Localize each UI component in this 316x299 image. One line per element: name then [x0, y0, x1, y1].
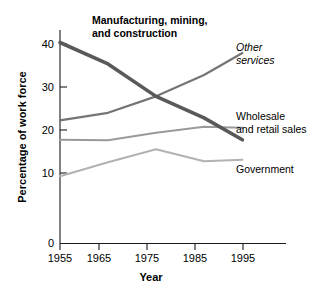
label-wholesale-line2: and retail sales	[236, 123, 307, 135]
x-tick-label-1975: 1975	[135, 252, 159, 264]
y-tick-label-30: 30	[42, 81, 54, 93]
label-manufacturing-line1: Manufacturing, mining,	[92, 14, 208, 26]
label-other-services-line2: services	[236, 54, 275, 66]
y-tick-label-20: 20	[42, 124, 54, 136]
label-wholesale-line1: Wholesale	[236, 110, 285, 122]
y-axis-title: Percentage of work force	[16, 71, 28, 202]
chart-canvas: 40 30 20 10 0 1955 1965 1975 1985 1995 P…	[0, 0, 316, 299]
y-tick-label-40: 40	[42, 38, 54, 50]
line-chart: 40 30 20 10 0 1955 1965 1975 1985 1995 P…	[0, 0, 316, 299]
series-line-wholesale	[60, 127, 242, 140]
y-tick-label-10: 10	[42, 167, 54, 179]
y-tick-label-0: 0	[48, 237, 54, 249]
series-line-manufacturing	[60, 43, 242, 140]
label-government-line1: Government	[236, 163, 294, 175]
x-tick-label-1995: 1995	[231, 252, 255, 264]
label-manufacturing-line2: and construction	[92, 27, 177, 39]
x-tick-label-1985: 1985	[183, 252, 207, 264]
x-axis-title: Year	[139, 271, 163, 283]
series-line-government	[60, 149, 242, 176]
x-tick-label-1955: 1955	[48, 252, 72, 264]
series-line-other-services	[60, 53, 242, 120]
label-other-services-line1: Other	[236, 41, 263, 53]
x-tick-label-1965: 1965	[87, 252, 111, 264]
